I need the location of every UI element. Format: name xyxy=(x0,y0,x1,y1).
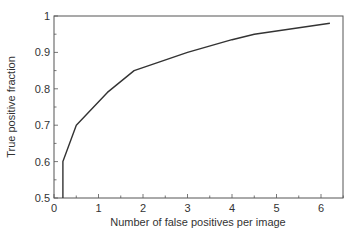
y-tick-label: 0.5 xyxy=(35,192,50,204)
x-tick-label: 2 xyxy=(140,202,146,214)
x-tick-label: 6 xyxy=(318,202,324,214)
y-tick-label: 1 xyxy=(44,10,50,22)
froc-curve-line xyxy=(63,23,330,198)
x-tick-label: 3 xyxy=(184,202,190,214)
x-axis-label: Number of false positives per image xyxy=(110,216,285,228)
y-tick-label: 0.9 xyxy=(35,46,50,58)
froc-chart: 0123456 0.50.60.70.80.91 Number of false… xyxy=(0,0,361,239)
x-tick-label: 0 xyxy=(51,202,57,214)
x-tick-label: 5 xyxy=(273,202,279,214)
y-tick-label: 0.7 xyxy=(35,119,50,131)
y-tick-label: 0.6 xyxy=(35,156,50,168)
x-tick-label: 4 xyxy=(229,202,235,214)
plot-frame xyxy=(54,16,343,198)
x-axis-ticks: 0123456 xyxy=(51,194,343,214)
y-axis-label: True positive fraction xyxy=(5,56,17,158)
y-axis-ticks: 0.50.60.70.80.91 xyxy=(35,10,58,204)
y-tick-label: 0.8 xyxy=(35,83,50,95)
x-tick-label: 1 xyxy=(95,202,101,214)
